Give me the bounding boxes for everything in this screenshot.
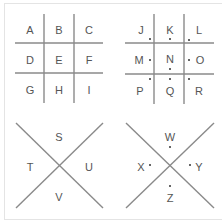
dot-j	[149, 38, 151, 40]
letter-m: M	[134, 55, 143, 66]
letter-n: N	[166, 54, 174, 65]
letter-p: P	[136, 86, 143, 97]
letter-h: H	[55, 85, 63, 96]
letter-u: U	[85, 162, 93, 173]
letter-w: W	[165, 132, 175, 143]
letter-x: X	[137, 162, 144, 173]
letter-a: A	[26, 25, 33, 36]
dot-p	[149, 78, 151, 80]
dot-z	[169, 185, 171, 187]
letter-i: I	[87, 85, 90, 96]
letter-c: C	[85, 25, 93, 36]
dot-n	[169, 68, 171, 70]
dot-y	[189, 164, 191, 166]
dot-l	[188, 39, 190, 41]
letter-s: S	[55, 132, 62, 143]
letter-f: F	[86, 55, 93, 66]
dot-o	[188, 59, 190, 61]
letter-d: D	[26, 55, 34, 66]
letter-b: B	[55, 25, 62, 36]
pigpen-cipher-diagram: A B C D E F G H I J K L M N O P Q R S T …	[0, 0, 222, 223]
letter-q: Q	[166, 86, 175, 97]
letter-t: T	[27, 162, 34, 173]
letter-k: K	[166, 25, 173, 36]
letter-g: G	[26, 85, 35, 96]
dot-r	[188, 78, 190, 80]
dot-m	[149, 59, 151, 61]
dot-x	[149, 164, 151, 166]
dot-k	[169, 38, 171, 40]
letter-v: V	[55, 192, 62, 203]
letter-z: Z	[167, 193, 174, 204]
dot-q	[169, 78, 171, 80]
letter-j: J	[138, 25, 144, 36]
letter-o: O	[196, 55, 205, 66]
letter-y: Y	[195, 162, 202, 173]
letter-l: L	[196, 25, 202, 36]
letter-r: R	[195, 86, 203, 97]
letter-e: E	[55, 55, 62, 66]
dot-w	[169, 146, 171, 148]
